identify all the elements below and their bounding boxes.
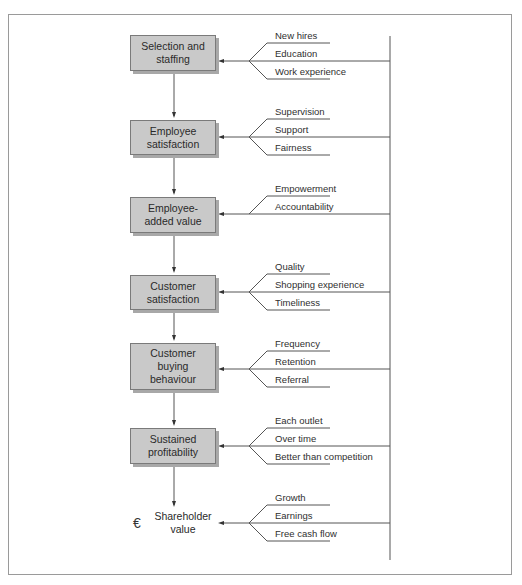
stage-box-selection-staffing: Selection andstaffing bbox=[130, 35, 216, 71]
driver-label: Each outlet bbox=[275, 415, 323, 426]
stage-label-line: profitability bbox=[148, 446, 198, 458]
driver-label: Timeliness bbox=[275, 297, 320, 308]
driver-label: Free cash flow bbox=[275, 528, 337, 539]
driver-label: New hires bbox=[275, 30, 317, 41]
stage-box-customer-satisfaction: Customersatisfaction bbox=[130, 275, 216, 310]
stage-label-line: staffing bbox=[156, 53, 190, 65]
stage-label-line: Employee- bbox=[148, 202, 198, 214]
stage-label-line: Sustained bbox=[150, 433, 197, 445]
stage-label-line: satisfaction bbox=[147, 293, 200, 305]
euro-icon: € bbox=[133, 515, 141, 531]
final-label-line: Shareholder bbox=[154, 510, 211, 522]
stage-label-line: Customer bbox=[150, 280, 196, 292]
final-outcome-shareholder-value: Shareholdervalue bbox=[148, 510, 218, 536]
driver-label: Referral bbox=[275, 374, 309, 385]
stage-label-line: buying bbox=[158, 360, 189, 372]
stage-label-line: Customer bbox=[150, 347, 196, 359]
driver-label: Accountability bbox=[275, 201, 334, 212]
driver-label: Empowerment bbox=[275, 183, 336, 194]
stage-label-line: added value bbox=[144, 215, 201, 227]
stage-label-line: Employee bbox=[150, 125, 197, 137]
driver-label: Work experience bbox=[275, 66, 346, 77]
driver-label: Better than competition bbox=[275, 451, 373, 462]
driver-label: Growth bbox=[275, 492, 306, 503]
stage-box-sustained-profitability: Sustainedprofitability bbox=[130, 428, 216, 464]
driver-label: Retention bbox=[275, 356, 316, 367]
driver-label: Shopping experience bbox=[275, 279, 364, 290]
stage-box-employee-added-value: Employee-added value bbox=[130, 197, 216, 233]
driver-label: Fairness bbox=[275, 142, 311, 153]
driver-label: Frequency bbox=[275, 338, 320, 349]
final-label-line: value bbox=[170, 523, 195, 535]
driver-label: Quality bbox=[275, 261, 305, 272]
connector-lines bbox=[0, 0, 522, 585]
driver-label: Supervision bbox=[275, 106, 325, 117]
driver-label: Education bbox=[275, 48, 317, 59]
driver-label: Earnings bbox=[275, 510, 313, 521]
driver-label: Over time bbox=[275, 433, 316, 444]
stage-box-customer-buying-behaviour: Customerbuyingbehaviour bbox=[130, 343, 216, 390]
stage-label-line: satisfaction bbox=[147, 138, 200, 150]
stage-label-line: behaviour bbox=[150, 373, 196, 385]
driver-label: Support bbox=[275, 124, 308, 135]
stage-box-employee-satisfaction: Employeesatisfaction bbox=[130, 120, 216, 155]
stage-label-line: Selection and bbox=[141, 40, 205, 52]
